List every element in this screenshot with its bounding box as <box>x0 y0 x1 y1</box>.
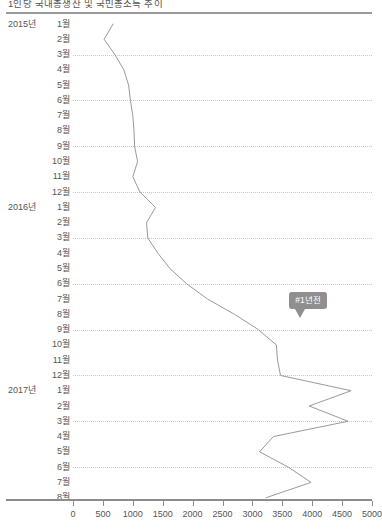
x-axis-tick-label: 2500 <box>212 509 232 519</box>
x-axis-tick-label: 3500 <box>272 509 292 519</box>
x-axis-tick-label: 500 <box>95 509 110 519</box>
plot-area: 2015년1월2월3월4월5월6월7월8월9월10월11월12월2016년1월2… <box>0 14 379 500</box>
x-axis-tick <box>193 501 194 506</box>
x-axis-tick-label: 1500 <box>153 509 173 519</box>
x-axis-line-left <box>6 499 73 501</box>
callout-tail-icon <box>295 309 305 318</box>
x-axis-tick-label: 2000 <box>183 509 203 519</box>
x-axis-tick <box>103 501 104 506</box>
x-axis-tick <box>223 501 224 506</box>
x-axis-tick-label: 4000 <box>302 509 322 519</box>
x-axis-tick <box>282 501 283 506</box>
chart-title: 1인당 국내총생산 및 국민총소득 추이 <box>8 0 163 10</box>
x-axis-tick <box>252 501 253 506</box>
x-axis-tick <box>312 501 313 506</box>
x-axis-tick <box>133 501 134 506</box>
x-axis-tick-label: 1000 <box>123 509 143 519</box>
x-axis-tick-label: 4500 <box>332 509 352 519</box>
x-axis-tick-label: 0 <box>70 509 75 519</box>
x-axis-tick-label: 5000 <box>362 509 382 519</box>
callout-label: #1년전 <box>295 295 320 305</box>
x-axis-tick <box>342 501 343 506</box>
callout-tooltip[interactable]: #1년전 <box>289 292 326 309</box>
x-axis-tick <box>372 501 373 506</box>
x-axis-tick <box>163 501 164 506</box>
x-axis-tick-label: 3000 <box>242 509 262 519</box>
data-line <box>0 14 379 500</box>
x-axis-tick <box>73 501 74 506</box>
